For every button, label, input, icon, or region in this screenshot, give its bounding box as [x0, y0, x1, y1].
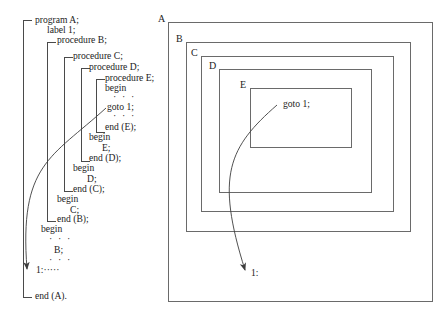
box-B-label: B — [176, 33, 183, 44]
box-E-label: E — [240, 79, 246, 90]
box-E — [250, 88, 352, 148]
figure-root: program A;label 1;procedure B;procedure … — [0, 0, 447, 322]
goto-statement-text: goto 1; — [283, 98, 310, 109]
box-A-label: A — [158, 13, 165, 24]
box-C-label: C — [191, 47, 198, 58]
box-D-label: D — [209, 60, 216, 71]
label-1-target: 1: — [251, 267, 258, 278]
scope-nesting-panel: ABCDE goto 1; 1: — [0, 0, 447, 322]
